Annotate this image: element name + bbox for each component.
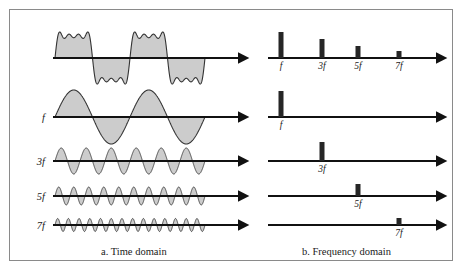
freq-row-seventh-harmonic-spectrum: 7f bbox=[268, 218, 437, 238]
spectrum-bar-7f bbox=[397, 218, 402, 225]
freq-row-fundamental-spectrum: f bbox=[268, 91, 437, 130]
spectrum-bar-3f bbox=[320, 39, 325, 58]
time-row-7f: 7f bbox=[37, 219, 239, 232]
freq-tick-label-3f: 3f bbox=[317, 61, 327, 71]
freq-tick-label-5f: 5f bbox=[354, 199, 363, 209]
spectrum-bar-3f bbox=[320, 142, 325, 161]
time-row-label-3f: 3f bbox=[36, 156, 47, 167]
freq-row-composite-spectrum: f3f5f7f bbox=[268, 32, 437, 71]
time-row-label-f: f bbox=[42, 112, 47, 123]
figure-root: f3f5f7f f3f5f7ff3f5f7f a. Time domain b.… bbox=[0, 0, 464, 276]
frequency-domain-panel: f3f5f7ff3f5f7f bbox=[268, 32, 437, 238]
caption-frequency-domain: b. Frequency domain bbox=[302, 246, 391, 257]
freq-tick-label-f: f bbox=[280, 120, 284, 130]
harmonics-figure: f3f5f7f f3f5f7ff3f5f7f bbox=[0, 0, 464, 276]
freq-tick-label-7f: 7f bbox=[395, 61, 404, 71]
time-domain-panel: f3f5f7f bbox=[36, 32, 239, 232]
time-row-f: f bbox=[42, 90, 239, 144]
freq-tick-label-7f: 7f bbox=[395, 228, 404, 238]
spectrum-bar-5f bbox=[356, 46, 361, 58]
time-row-composite bbox=[53, 32, 239, 84]
time-row-5f: 5f bbox=[37, 187, 239, 205]
spectrum-bar-f bbox=[279, 32, 284, 58]
freq-tick-label-5f: 5f bbox=[354, 61, 363, 71]
time-row-label-7f: 7f bbox=[37, 220, 47, 231]
time-row-3f: 3f bbox=[36, 148, 239, 174]
spectrum-bar-7f bbox=[397, 51, 402, 58]
freq-tick-label-f: f bbox=[280, 61, 284, 71]
freq-tick-label-3f: 3f bbox=[317, 164, 327, 174]
freq-row-fifth-harmonic-spectrum: 5f bbox=[268, 184, 437, 209]
caption-time-domain: a. Time domain bbox=[101, 246, 167, 257]
time-row-label-5f: 5f bbox=[37, 191, 47, 202]
freq-row-third-harmonic-spectrum: 3f bbox=[268, 142, 437, 174]
spectrum-bar-f bbox=[279, 91, 284, 117]
spectrum-bar-5f bbox=[356, 184, 361, 196]
